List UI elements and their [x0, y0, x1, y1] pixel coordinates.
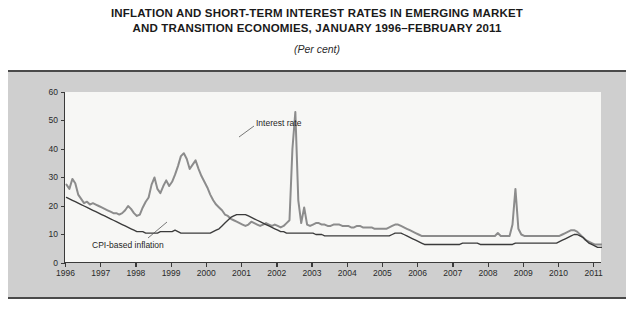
x-tick-mark-2010 [558, 263, 559, 267]
x-tick-label-1996: 1996 [45, 269, 85, 278]
x-tick-mark-2006 [417, 263, 418, 267]
x-tick-label-2003: 2003 [292, 269, 332, 278]
x-tick-mark-1999 [171, 263, 172, 267]
x-tick-label-2005: 2005 [362, 269, 402, 278]
x-tick-label-2000: 2000 [186, 269, 226, 278]
x-tick-mark-2003 [311, 263, 312, 267]
x-tick-mark-2007 [452, 263, 453, 267]
x-tick-mark-2008 [488, 263, 489, 267]
x-tick-label-2009: 2009 [503, 269, 543, 278]
title-block: INFLATION AND SHORT-TERM INTEREST RATES … [0, 6, 634, 55]
chart-figure: INFLATION AND SHORT-TERM INTEREST RATES … [0, 0, 634, 315]
chart-title-line-2: AND TRANSITION ECONOMIES, JANUARY 1996–F… [0, 21, 634, 36]
x-tick-label-2001: 2001 [222, 269, 262, 278]
x-tick-label-1997: 1997 [81, 269, 121, 278]
y-tick-label-50: 50 [32, 116, 58, 125]
plot-area [64, 92, 601, 263]
annotation-interest-rate: Interest rate [256, 118, 301, 128]
chart-title-line-1: INFLATION AND SHORT-TERM INTEREST RATES … [0, 6, 634, 21]
x-tick-mark-2004 [347, 263, 348, 267]
x-tick-label-2008: 2008 [468, 269, 508, 278]
y-tick-label-30: 30 [32, 173, 58, 182]
y-tick-label-20: 20 [32, 202, 58, 211]
x-tick-label-2006: 2006 [398, 269, 438, 278]
x-tick-mark-2005 [382, 263, 383, 267]
x-tick-label-1999: 1999 [151, 269, 191, 278]
rule-bottom [8, 297, 626, 299]
annotation-cpi-inflation: CPI-based inflation [92, 240, 164, 250]
x-tick-label-2007: 2007 [433, 269, 473, 278]
x-tick-label-2010: 2010 [538, 269, 578, 278]
x-tick-mark-2001 [241, 263, 242, 267]
x-tick-mark-1996 [65, 263, 66, 267]
x-tick-label-2011: 2011 [574, 269, 614, 278]
series-canvas [65, 92, 602, 263]
x-tick-label-2002: 2002 [257, 269, 297, 278]
x-tick-mark-2009 [523, 263, 524, 267]
x-tick-mark-2000 [206, 263, 207, 267]
x-tick-label-1998: 1998 [116, 269, 156, 278]
y-tick-label-60: 60 [32, 88, 58, 97]
y-tick-label-40: 40 [32, 145, 58, 154]
x-tick-mark-1998 [135, 263, 136, 267]
y-tick-label-10: 10 [32, 230, 58, 239]
x-tick-mark-2002 [276, 263, 277, 267]
x-tick-mark-1997 [100, 263, 101, 267]
y-tick-label-0: 0 [32, 259, 58, 268]
series-line-interest-rate [66, 112, 602, 249]
x-tick-mark-2011 [593, 263, 594, 267]
chart-subtitle: (Per cent) [0, 43, 634, 55]
x-tick-label-2004: 2004 [327, 269, 367, 278]
